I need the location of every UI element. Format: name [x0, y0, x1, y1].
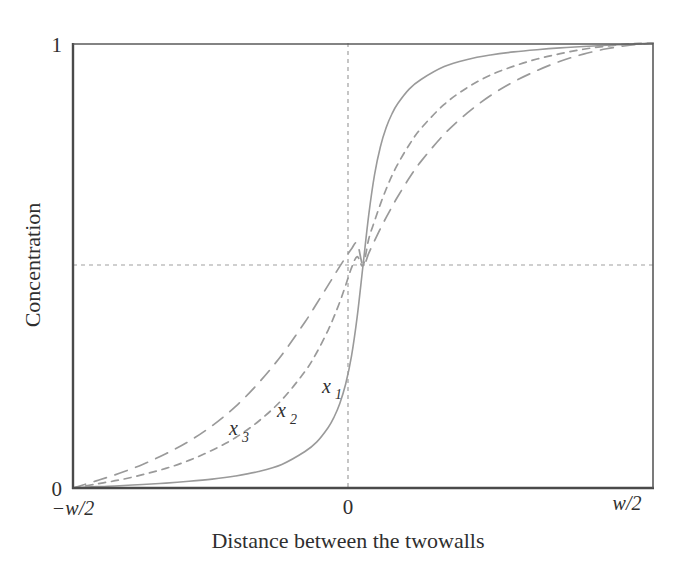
curve-label-x1-base: x — [321, 375, 331, 397]
x-tick-label-left: −w/2 — [52, 497, 94, 519]
y-axis-title: Concentration — [20, 203, 45, 328]
concentration-distance-chart: 1 0 −w/2 0 w/2 Distance between the twow… — [0, 0, 674, 568]
x-tick-label-right: w/2 — [613, 492, 642, 514]
x-axis-title: Distance between the twowalls — [211, 528, 484, 553]
figure-container: 1 0 −w/2 0 w/2 Distance between the twow… — [0, 0, 674, 568]
curve-label-x2-base: x — [276, 399, 286, 421]
curve-label-x2-sub: 2 — [290, 412, 297, 427]
x-tick-label-center: 0 — [343, 495, 354, 519]
curve-label-x3-sub: 3 — [241, 430, 249, 445]
curve-label-x3-base: x — [228, 417, 238, 439]
y-tick-label-top: 1 — [52, 33, 63, 57]
curve-label-x1-sub: 1 — [335, 387, 342, 402]
